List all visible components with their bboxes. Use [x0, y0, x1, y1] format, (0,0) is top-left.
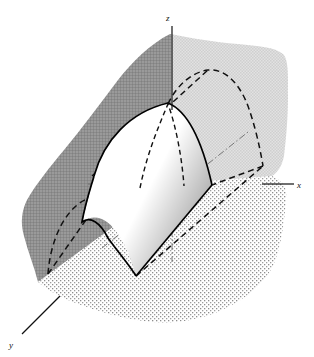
figure-canvas: z x y — [0, 0, 314, 357]
axis-y-line — [22, 296, 60, 334]
axis-label-x: x — [296, 180, 301, 190]
axis-label-y: y — [8, 340, 13, 350]
parabolic-cylinder-diagram: z x y — [0, 0, 314, 357]
axis-label-z: z — [165, 13, 170, 23]
